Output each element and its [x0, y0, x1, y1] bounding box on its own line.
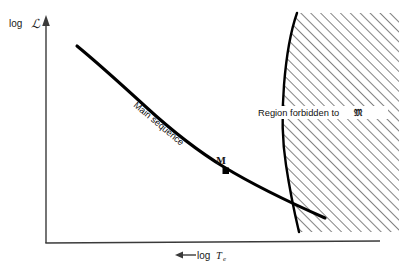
y-axis-label: log ℒ [9, 17, 41, 31]
mass-marker-dot [223, 168, 230, 175]
hr-diagram-figure: log ℒ log T e M Main sequence Region for… [0, 0, 411, 275]
x-axis-label-subscript: e [223, 255, 226, 263]
x-axis-label-log: log [197, 250, 210, 261]
y-axis-label-log: log [9, 18, 22, 29]
y-axis-label-symbol: ℒ [31, 17, 41, 31]
x-axis-label-symbol: T [216, 250, 223, 261]
mass-marker-label: M [216, 156, 226, 166]
diagram-canvas: log ℒ log T e M Main sequence Region for… [0, 0, 411, 275]
forbidden-region-label-symbol: 𝔐 [354, 108, 363, 118]
x-axis-direction-arrow-icon [175, 252, 183, 259]
x-axis-label: log T e [175, 250, 226, 264]
x-axis [45, 241, 380, 243]
y-axis [42, 15, 50, 243]
main-sequence-label: Main sequence [132, 100, 186, 148]
forbidden-region-label-group: Region forbidden to 𝔐 [256, 106, 388, 119]
main-sequence-label-group: Main sequence [132, 100, 186, 148]
forbidden-region-label: Region forbidden to [258, 108, 339, 118]
